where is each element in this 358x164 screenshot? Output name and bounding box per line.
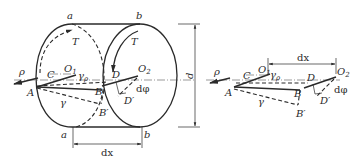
right-label-o2: O2 — [337, 66, 350, 79]
label-rho: ρ — [18, 66, 25, 77]
label-diameter: d — [184, 73, 195, 79]
right-line-a-bprime — [234, 89, 298, 105]
right-label-dx: dx — [297, 52, 309, 63]
right-label-d-prime: D′ — [319, 95, 331, 106]
torsion-diagram: a b a b T T ρ C O1 γρ D O2 A B γ B′ D′ d… — [0, 0, 358, 164]
label-c: C — [47, 69, 55, 80]
left-cylinder-view: a b a b T T ρ C O1 γρ D O2 A B γ B′ D′ d… — [14, 10, 200, 158]
right-right-angle-mark — [313, 84, 322, 94]
line-a-bprime — [37, 88, 100, 104]
right-label-b: B — [293, 88, 301, 99]
right-strain-view: ρ C O1 γρ dx D O2 A B γ B′ D′ dφ — [206, 52, 350, 119]
label-gamma: γ — [60, 97, 66, 108]
label-d: D — [111, 69, 120, 80]
rho-arrow — [14, 78, 38, 84]
label-o2: O2 — [138, 63, 151, 76]
right-label-b-prime: B′ — [295, 108, 306, 119]
label-b-prime: B′ — [98, 107, 109, 118]
right-label-dphi: dφ — [334, 84, 347, 95]
label-b-bottom: b — [144, 129, 150, 140]
label-a-bottom: a — [61, 129, 67, 140]
label-torque-left: T — [72, 36, 80, 47]
right-line-a-o1 — [234, 74, 270, 87]
right-label-d: D — [306, 72, 315, 83]
label-b-top: b — [136, 10, 142, 21]
right-label-a: A — [224, 87, 232, 98]
label-d-prime: D′ — [123, 95, 135, 106]
right-angle-mark — [116, 82, 126, 94]
label-b: B — [94, 86, 102, 97]
line-a-b — [37, 87, 102, 90]
label-dphi: dφ — [136, 83, 149, 94]
label-gamma-rho: γρ — [78, 70, 89, 83]
label-a-top: a — [67, 10, 73, 21]
right-line-a-b — [234, 87, 300, 90]
label-dx: dx — [101, 147, 113, 158]
right-label-rho: ρ — [213, 66, 220, 77]
label-a: A — [26, 87, 34, 98]
right-label-c: C — [243, 70, 251, 81]
label-torque-right: T — [131, 36, 139, 47]
right-label-gamma: γ — [258, 96, 264, 107]
right-rho-arrow — [210, 78, 230, 83]
